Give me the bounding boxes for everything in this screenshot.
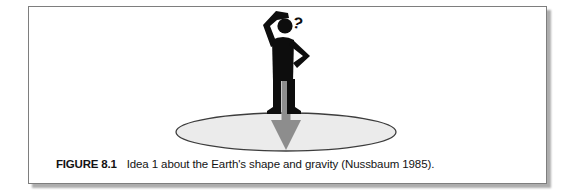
figure-caption-row: FIGURE 8.1Idea 1 about the Earth's shape… (56, 154, 434, 172)
page-background: ? FIGURE 8.1Idea 1 about the Earth's sha… (0, 0, 577, 194)
person-right-leg (287, 79, 301, 114)
figure-caption: Idea 1 about the Earth's shape and gravi… (127, 158, 435, 170)
figure-panel: ? FIGURE 8.1Idea 1 about the Earth's sha… (28, 6, 547, 184)
question-mark: ? (291, 14, 305, 33)
person-head (277, 18, 292, 33)
figure-label: FIGURE 8.1 (56, 158, 117, 170)
person-left-leg (267, 79, 281, 114)
